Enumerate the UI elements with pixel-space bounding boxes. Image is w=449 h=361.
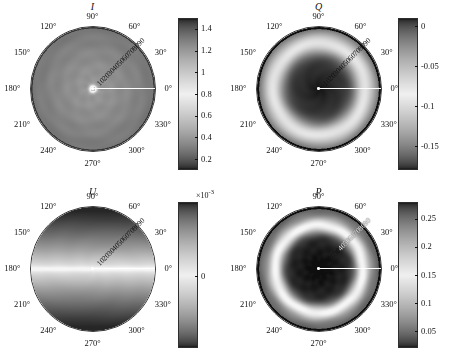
colorbar-tick-mark <box>415 247 418 248</box>
angular-tick-label-150: 150° <box>240 47 256 57</box>
angular-tick-label-300: 300° <box>355 325 371 335</box>
angular-tick-label-180: 180° <box>4 83 20 93</box>
angular-tick-label-0: 0° <box>391 263 399 273</box>
colorbar-tick-mark <box>195 159 198 160</box>
zero-degree-radial-line <box>319 88 381 89</box>
angular-tick-label-240: 240° <box>266 145 282 155</box>
colorbar-tick-label: 0.2 <box>421 241 432 251</box>
colorbar-multiplier-base: ×10 <box>196 191 209 200</box>
angular-tick-label-60: 60° <box>355 201 367 211</box>
angular-tick-label-240: 240° <box>266 325 282 335</box>
angular-tick-label-0: 0° <box>165 263 173 273</box>
angular-tick-label-60: 60° <box>129 21 141 31</box>
colorbar-tick-mark <box>195 116 198 117</box>
colorbar-tick-mark <box>195 137 198 138</box>
colorbar-tick-label: 0.4 <box>201 132 212 142</box>
angular-tick-label-180: 180° <box>230 263 246 273</box>
angular-tick-label-210: 210° <box>240 299 256 309</box>
colorbar-tick-label: -0.05 <box>421 61 439 71</box>
angular-tick-label-330: 330° <box>155 119 171 129</box>
angular-tick-label-210: 210° <box>14 299 30 309</box>
colorbar-tick-label: 0.25 <box>421 213 436 223</box>
colorbar-multiplier: ×10-3 <box>196 188 214 200</box>
angular-tick-label-270: 270° <box>310 158 326 168</box>
angular-tick-label-120: 120° <box>40 21 56 31</box>
angular-tick-label-240: 240° <box>40 145 56 155</box>
angular-tick-label-330: 330° <box>381 119 397 129</box>
colorbar-tick-mark <box>195 72 198 73</box>
angular-tick-label-60: 60° <box>129 201 141 211</box>
angular-tick-label-90: 90° <box>87 191 99 201</box>
angular-tick-label-30: 30° <box>381 227 393 237</box>
angular-tick-label-270: 270° <box>84 158 100 168</box>
colorbar-tick-mark <box>415 303 418 304</box>
angular-tick-label-120: 120° <box>266 201 282 211</box>
colorbar-tick-label: 0.05 <box>421 326 436 336</box>
colorbar-tick-label: 0.15 <box>421 270 436 280</box>
colorbar-tick-mark <box>415 66 418 67</box>
angular-tick-label-150: 150° <box>14 227 30 237</box>
angular-tick-label-120: 120° <box>266 21 282 31</box>
colorbar-tick-label: 0 <box>201 271 205 281</box>
angular-tick-label-90: 90° <box>313 11 325 21</box>
colorbar-tick-label: 1 <box>201 67 205 77</box>
colorbar-tick-mark <box>195 94 198 95</box>
angular-tick-label-30: 30° <box>155 227 167 237</box>
angular-tick-label-90: 90° <box>87 11 99 21</box>
caption-fragment <box>0 352 449 361</box>
colorbar-tick-mark <box>195 276 198 277</box>
colorbar-tick-label: -0.15 <box>421 141 439 151</box>
angular-tick-label-270: 270° <box>84 338 100 348</box>
center-marker <box>317 267 320 270</box>
colorbar-tick-label: 0 <box>421 21 425 31</box>
colorbar-tick-mark <box>195 29 198 30</box>
angular-tick-label-150: 150° <box>240 227 256 237</box>
angular-tick-label-60: 60° <box>355 21 367 31</box>
colorbar-tick-mark <box>415 26 418 27</box>
colorbar-tick-mark <box>415 275 418 276</box>
colorbar-tick-label: -0.1 <box>421 101 434 111</box>
angular-tick-label-330: 330° <box>155 299 171 309</box>
colorbar-tick-label: 0.8 <box>201 89 212 99</box>
angular-tick-label-90: 90° <box>313 191 325 201</box>
angular-tick-label-240: 240° <box>40 325 56 335</box>
angular-tick-label-150: 150° <box>14 47 30 57</box>
zero-degree-radial-line <box>93 268 155 269</box>
zero-degree-radial-line <box>93 88 155 89</box>
colorbar-u <box>178 202 198 348</box>
center-marker <box>91 87 94 90</box>
colorbar-tick-mark <box>415 219 418 220</box>
colorbar-tick-mark <box>415 331 418 332</box>
angular-tick-label-180: 180° <box>230 83 246 93</box>
colorbar-tick-label: 0.2 <box>201 154 212 164</box>
angular-tick-label-300: 300° <box>355 145 371 155</box>
angular-tick-label-210: 210° <box>14 119 30 129</box>
angular-tick-label-0: 0° <box>165 83 173 93</box>
zero-degree-radial-line <box>319 268 381 269</box>
colorbar-multiplier-exponent: -3 <box>209 188 214 195</box>
angular-tick-label-30: 30° <box>381 47 393 57</box>
colorbar-tick-mark <box>415 106 418 107</box>
angular-tick-label-270: 270° <box>310 338 326 348</box>
colorbar-tick-mark <box>195 51 198 52</box>
angular-tick-label-180: 180° <box>4 263 20 273</box>
colorbar-tick-label: 1.2 <box>201 45 212 55</box>
colorbar-q <box>398 18 418 170</box>
colorbar-tick-mark <box>415 146 418 147</box>
angular-tick-label-120: 120° <box>40 201 56 211</box>
angular-tick-label-300: 300° <box>129 145 145 155</box>
colorbar-tick-label: 1.4 <box>201 23 212 33</box>
angular-tick-label-0: 0° <box>391 83 399 93</box>
center-marker <box>91 267 94 270</box>
angular-tick-label-30: 30° <box>155 47 167 57</box>
angular-tick-label-210: 210° <box>240 119 256 129</box>
colorbar-tick-label: 0.6 <box>201 110 212 120</box>
angular-tick-label-330: 330° <box>381 299 397 309</box>
center-marker <box>317 87 320 90</box>
colorbar-tick-label: 0.1 <box>421 298 432 308</box>
angular-tick-label-300: 300° <box>129 325 145 335</box>
